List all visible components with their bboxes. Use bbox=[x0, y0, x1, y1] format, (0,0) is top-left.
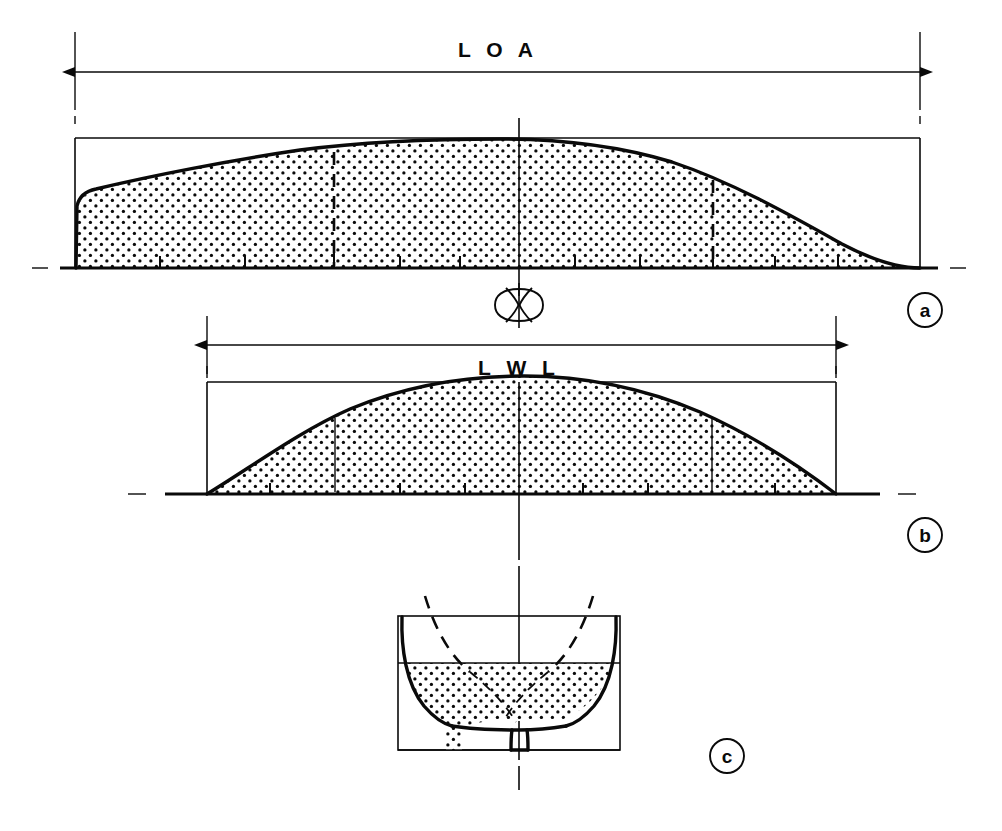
figure-root: L O A bbox=[0, 0, 1002, 831]
panel-b-letter: b bbox=[919, 525, 931, 546]
panel-a-letter: a bbox=[920, 300, 931, 321]
loa-label: L O A bbox=[458, 38, 538, 61]
panel-c-letter: c bbox=[722, 746, 733, 767]
fin-keel-port-face bbox=[511, 730, 512, 750]
fin-keel-starboard-face bbox=[527, 730, 528, 750]
hull-form-figure: L O A bbox=[0, 0, 1002, 831]
